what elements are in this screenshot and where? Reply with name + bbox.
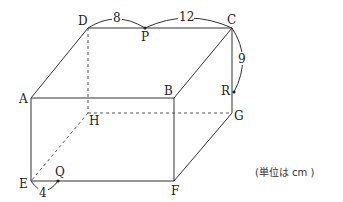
- unit-note: (単位は cm ): [255, 166, 314, 178]
- hidden-edges: [31, 28, 232, 181]
- label-B: B: [164, 84, 173, 98]
- label-H: H: [89, 114, 99, 128]
- edge-FG: [174, 113, 232, 181]
- label-A: A: [18, 92, 28, 106]
- measure-CR: 9: [238, 52, 246, 66]
- label-E: E: [19, 177, 28, 191]
- label-D: D: [78, 14, 88, 28]
- label-C: C: [227, 13, 236, 27]
- edge-AD: [31, 28, 88, 98]
- point-R-dot: [232, 90, 235, 93]
- label-Q: Q: [55, 165, 65, 179]
- label-P: P: [141, 30, 149, 44]
- label-G: G: [234, 109, 244, 123]
- label-R: R: [221, 84, 231, 98]
- point-Q-dot: [56, 179, 59, 182]
- point-markers: [56, 26, 235, 182]
- measure-DP: 8: [113, 11, 121, 25]
- label-F: F: [171, 184, 179, 198]
- prism-diagram: 8 12 9 4 D C A B H G E F P R Q (単位は cm ): [0, 0, 343, 202]
- measure-PC: 12: [179, 10, 194, 24]
- visible-edges: [31, 28, 232, 181]
- measure-EQ: 4: [39, 186, 47, 200]
